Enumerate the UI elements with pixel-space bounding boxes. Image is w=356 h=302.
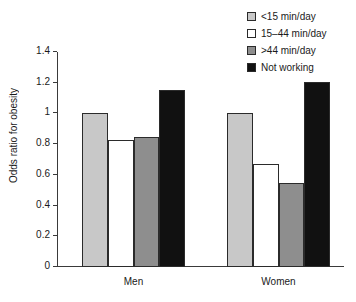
bar xyxy=(108,140,134,267)
y-axis-tick-label: 0.2 xyxy=(36,229,50,240)
y-axis-tick: 1.2 xyxy=(53,82,57,83)
y-axis-tick-label: 1.2 xyxy=(36,76,50,87)
bar xyxy=(304,82,330,267)
bar xyxy=(227,113,253,267)
y-axis-tick: 0.4 xyxy=(53,205,57,206)
x-axis-category-label: Men xyxy=(82,276,185,288)
bar xyxy=(159,90,185,267)
y-axis-tick: 1.4 xyxy=(53,51,57,52)
y-axis-tick: 0.8 xyxy=(53,143,57,144)
y-axis-title: Odds ratio for obesity xyxy=(8,88,22,183)
y-axis-tick: 0.6 xyxy=(53,174,57,175)
y-axis-tick-label: 1 xyxy=(44,106,50,117)
plot-area: 00.20.40.60.811.21.4 xyxy=(57,52,344,267)
y-axis-tick-label: 0 xyxy=(44,260,50,271)
y-axis-tick: 0 xyxy=(53,266,57,267)
bar xyxy=(134,137,160,267)
y-axis-line xyxy=(57,52,58,267)
legend-swatch-icon xyxy=(247,12,256,21)
y-axis-tick: 0.2 xyxy=(53,235,57,236)
y-axis-tick-label: 0.4 xyxy=(36,199,50,210)
bar xyxy=(279,183,305,267)
legend-item: <15 min/day xyxy=(247,8,353,24)
bar-chart: <15 min/day 15–44 min/day >44 min/day No… xyxy=(0,0,356,302)
legend-item-label: <15 min/day xyxy=(261,11,316,22)
legend-swatch-icon xyxy=(247,29,256,38)
x-axis-category-label: Women xyxy=(227,276,330,288)
y-axis-tick-label: 0.8 xyxy=(36,137,50,148)
bar xyxy=(253,164,279,267)
bar xyxy=(82,113,108,267)
legend-item: 15–44 min/day xyxy=(247,25,353,41)
legend-item-label: 15–44 min/day xyxy=(261,28,327,39)
y-axis-tick-label: 0.6 xyxy=(36,168,50,179)
y-axis-tick: 1 xyxy=(53,112,57,113)
y-axis-tick-label: 1.4 xyxy=(36,45,50,56)
